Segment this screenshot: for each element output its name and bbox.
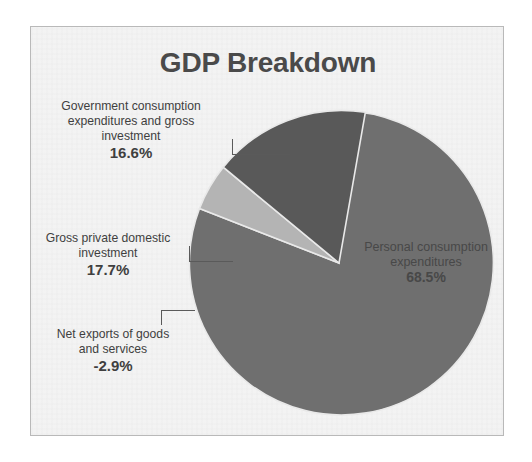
- callout-value-gross-private-investment: 17.7%: [31, 262, 185, 277]
- callout-line1: Gross private domestic: [31, 231, 185, 246]
- slice-label-personal-consumption: Personal consumption expenditures 68.5%: [351, 240, 501, 286]
- leader-line-net-exports: [161, 310, 197, 326]
- callout-line2: investment: [31, 246, 185, 261]
- leader-horizontal: [232, 154, 290, 155]
- callout-gross-private-investment: Gross private domestic investment 17.7%: [31, 231, 185, 277]
- slice-label-line1: Personal consumption: [364, 240, 488, 254]
- slice-value-personal-consumption: 68.5%: [406, 269, 446, 285]
- callout-line3: investment: [33, 129, 229, 144]
- callout-government-consumption: Government consumption expenditures and …: [33, 99, 229, 160]
- leader-horizontal: [189, 261, 233, 262]
- figure-canvas: GDP Breakdown Personal consumption expen…: [0, 0, 532, 462]
- callout-line2: expenditures and gross: [33, 114, 229, 129]
- slice-label-line2: expenditures: [390, 255, 462, 269]
- leader-horizontal: [161, 310, 195, 311]
- leader-line-gross-private-investment: [189, 246, 235, 262]
- leader-vertical: [189, 246, 190, 261]
- callout-value-government-consumption: 16.6%: [33, 145, 229, 160]
- callout-net-exports: Net exports of goods and services -2.9%: [33, 327, 193, 373]
- chart-frame: GDP Breakdown Personal consumption expen…: [30, 26, 504, 436]
- callout-line1: Net exports of goods: [33, 327, 193, 342]
- callout-value-net-exports: -2.9%: [33, 358, 193, 373]
- callout-line2: and services: [33, 342, 193, 357]
- leader-vertical: [161, 311, 162, 325]
- leader-vertical: [232, 139, 233, 154]
- leader-line-government-consumption: [232, 139, 292, 155]
- callout-line1: Government consumption: [33, 99, 229, 114]
